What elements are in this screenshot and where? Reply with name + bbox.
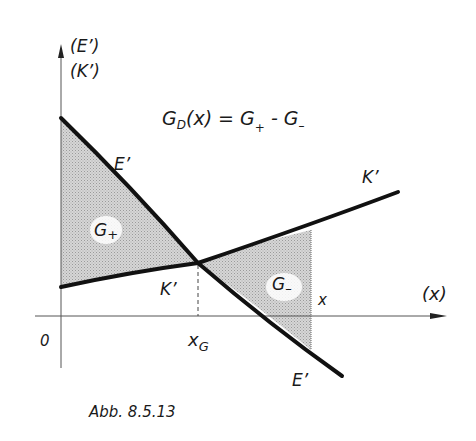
diagram-canvas: (E’) (K’) GD(x) = G+ - G– E’ K’ K’ E’ G+… [0, 0, 476, 441]
label-k-prime-upper: K’ [362, 167, 379, 187]
y-axis-arrow-icon [58, 44, 64, 58]
x-g-label: xG [187, 329, 209, 354]
y-axis-label-k: (K’) [70, 61, 100, 81]
label-e-prime-upper: E’ [114, 154, 131, 174]
figure-caption: Abb. 8.5.13 [88, 403, 176, 421]
x-axis-arrow-icon [430, 313, 447, 319]
label-e-prime-lower: E’ [292, 370, 309, 390]
x-axis-label: (x) [422, 283, 447, 304]
y-axis-label-e: (E’) [70, 36, 99, 56]
x-label: x [317, 291, 327, 309]
origin-label: 0 [40, 332, 50, 350]
formula: GD(x) = G+ - G– [162, 107, 305, 135]
label-k-prime-lower: K’ [160, 279, 177, 299]
area-g-plus [61, 118, 198, 287]
